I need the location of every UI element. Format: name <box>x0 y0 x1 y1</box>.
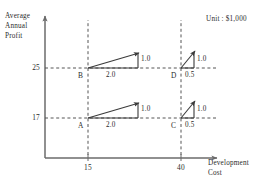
triangle-b-run-label: 2.0 <box>106 71 116 81</box>
unit-note: Unit : $1,000 <box>206 15 247 25</box>
y-axis-title: Average Annual Profit <box>5 11 30 41</box>
y-tick-label-25: 25 <box>20 63 40 73</box>
triangle-d-hypotenuse-arrow <box>181 51 195 68</box>
point-label-a: A <box>78 121 84 131</box>
triangle-a-rise-label: 1.0 <box>141 105 151 115</box>
x-tick-label-40: 40 <box>171 163 191 173</box>
point-label-c: C <box>171 121 176 131</box>
y-axis-title-line-1: Average <box>5 11 30 21</box>
y-tick-label-17: 17 <box>20 113 40 123</box>
slope-triangle-b <box>88 53 139 68</box>
triangle-b-rise-label: 1.0 <box>141 55 151 65</box>
axes-group <box>45 16 217 158</box>
slope-triangle-d <box>181 51 195 68</box>
y-axis-title-line-3: Profit <box>5 31 30 41</box>
triangle-d-run-label: 0.5 <box>185 71 195 81</box>
x-axis-title-line-1: Development <box>208 158 249 168</box>
slope-triangle-c <box>181 101 195 118</box>
chart-figure: Average Annual Profit Development Cost U… <box>0 0 267 187</box>
slope-triangle-a <box>88 103 139 118</box>
x-axis-title: Development Cost <box>208 158 249 178</box>
triangle-b-hypotenuse-arrow <box>88 53 139 68</box>
y-axis-title-line-2: Annual <box>5 21 30 31</box>
x-tick-label-15: 15 <box>78 163 98 173</box>
x-axis-title-line-2: Cost <box>208 168 249 178</box>
triangle-a-run-label: 2.0 <box>106 121 116 131</box>
point-label-b: B <box>78 71 83 81</box>
triangle-c-hypotenuse-arrow <box>181 101 195 118</box>
triangle-c-rise-label: 1.0 <box>197 105 207 115</box>
triangle-c-run-label: 0.5 <box>185 121 195 131</box>
point-label-d: D <box>171 71 177 81</box>
triangle-d-rise-label: 1.0 <box>197 55 207 65</box>
gridlines-group <box>45 20 216 155</box>
triangle-a-hypotenuse-arrow <box>88 103 139 118</box>
